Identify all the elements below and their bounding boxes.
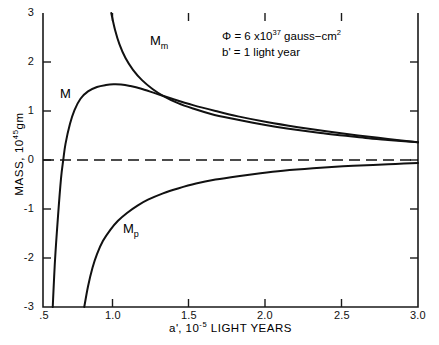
curve-label-Mm-main: M <box>150 33 161 48</box>
xtick-label-2.5: 2.5 <box>327 309 357 321</box>
annotation-b-equals: = <box>234 46 241 58</box>
y-axis-title-suffix: gm <box>13 112 25 129</box>
ytick-label-neg2: -2 <box>8 251 34 263</box>
x-axis-title-exponent: -5 <box>199 320 207 329</box>
curve-label-Mm: Mm <box>150 33 168 48</box>
annotation-flux-unit: gauss−cm <box>284 30 337 42</box>
curve-label-Mp-sub: p <box>134 229 139 239</box>
x-axis-title-suffix: LIGHT YEARS <box>207 322 292 334</box>
curve-label-M: M <box>60 86 71 101</box>
ytick-label-neg3: -3 <box>8 300 34 312</box>
y-axis-title-exponent: 45 <box>11 129 20 139</box>
annotation-flux-symbol: Φ <box>222 30 231 42</box>
xtick-label-0.5: .5 <box>32 309 56 321</box>
chart-plot-area <box>0 0 439 345</box>
annotation-b-line: b' = 1 light year <box>222 44 341 60</box>
x-axis-title-mid: , 10 <box>178 322 199 334</box>
x-axis-title: a', 10-5 LIGHT YEARS <box>43 322 418 334</box>
ytick-label-2: 2 <box>12 55 34 67</box>
xtick-label-1.0: 1.0 <box>98 309 128 321</box>
y-axis-title-prefix: MASS, 10 <box>13 139 25 196</box>
curve-label-M-main: M <box>60 86 71 101</box>
annotation-flux-unit-exponent: 2 <box>337 28 341 37</box>
xtick-label-3.0: 3.0 <box>403 309 433 321</box>
x-axis-title-prefix: a <box>169 322 176 334</box>
y-axis-title: MASS, 1045gm <box>13 94 25 214</box>
parameter-annotation: Φ = 6 x1037 gauss−cm2 b' = 1 light year <box>222 28 341 60</box>
curve-label-Mp: Mp <box>123 221 139 236</box>
annotation-flux-line: Φ = 6 x1037 gauss−cm2 <box>222 28 341 44</box>
ytick-label-3: 3 <box>12 6 34 18</box>
annotation-flux-coefficient: 6 x10 <box>244 30 272 42</box>
curve-label-Mm-sub: m <box>161 41 169 51</box>
annotation-b-value: 1 light year <box>244 46 300 58</box>
curve-M <box>53 84 418 307</box>
figure-container: 3 2 1 0 -1 -2 -3 .5 1.0 1.5 2.0 2.5 3.0 … <box>0 0 439 345</box>
xtick-label-2.0: 2.0 <box>250 309 280 321</box>
annotation-flux-exponent: 37 <box>272 28 280 37</box>
curve-label-Mp-main: M <box>123 221 134 236</box>
